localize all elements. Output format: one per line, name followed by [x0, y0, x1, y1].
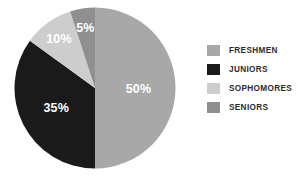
legend-item-juniors[interactable]: JUNIORS — [207, 63, 298, 75]
pie-chart-svg: 50%35%10%5% — [14, 7, 176, 169]
legend-swatch-sophomores — [207, 83, 220, 94]
legend-swatch-juniors — [207, 64, 220, 75]
pie-data-label-seniors: 5% — [76, 21, 94, 35]
pie-data-label-freshmen: 50% — [126, 82, 152, 96]
legend-item-seniors[interactable]: SENIORS — [207, 101, 298, 113]
legend-label-seniors: SENIORS — [229, 102, 268, 113]
legend-label-freshmen: FRESHMEN — [229, 45, 278, 56]
pie-chart-plot-area: 50%35%10%5% — [14, 7, 176, 169]
chart-legend: FRESHMENJUNIORSSOPHOMORESSENIORS — [207, 44, 298, 113]
legend-label-sophomores: SOPHOMORES — [229, 83, 292, 94]
pie-chart-figure: 50%35%10%5% FRESHMENJUNIORSSOPHOMORESSEN… — [0, 0, 298, 176]
pie-data-label-sophomores: 10% — [46, 32, 72, 46]
legend-item-freshmen[interactable]: FRESHMEN — [207, 44, 298, 56]
pie-slices-group — [14, 8, 175, 169]
legend-swatch-freshmen — [207, 45, 220, 56]
legend-label-juniors: JUNIORS — [229, 64, 268, 75]
legend-item-sophomores[interactable]: SOPHOMORES — [207, 82, 298, 94]
pie-data-label-juniors: 35% — [43, 101, 69, 115]
legend-swatch-seniors — [207, 102, 220, 113]
